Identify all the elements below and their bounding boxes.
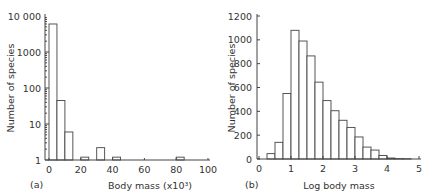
y-axis-label: Number of species [5, 44, 16, 133]
x-tick-label: 2 [320, 163, 326, 174]
chart-b-log-body-mass-histogram: 020040060080010001200012345Log body mass… [226, 11, 422, 192]
x-tick-label: 0 [256, 163, 262, 174]
y-tick-label: 1200 [228, 11, 252, 22]
x-tick-label: 40 [107, 164, 119, 175]
x-tick-label: 0 [46, 164, 52, 175]
histogram-bar [65, 132, 73, 160]
x-tick-label: 5 [416, 163, 422, 174]
histogram-bar [379, 155, 387, 159]
x-tick-label: 20 [75, 164, 87, 175]
histogram-bar [275, 142, 283, 159]
histogram-bar [363, 147, 371, 159]
y-tick-label: 100 [23, 83, 41, 94]
histogram-bar [315, 82, 323, 159]
x-tick-label: 60 [138, 164, 150, 175]
y-tick-label: 0 [246, 154, 252, 165]
panel-label: (b) [245, 179, 258, 190]
histogram-bar [355, 137, 363, 159]
histogram-bar [307, 56, 315, 159]
histogram-bar [299, 41, 307, 159]
x-tick-label: 3 [352, 163, 358, 174]
histogram-bar [371, 150, 379, 159]
y-tick-label: 10 000 [8, 11, 41, 22]
figure: 110100100010 000020406080100Body mass (x… [0, 0, 429, 196]
histogram-bar [331, 111, 339, 159]
chart-a-body-mass-histogram: 110100100010 000020406080100Body mass (x… [5, 11, 217, 192]
histogram-bar [267, 154, 275, 159]
histogram-bar [97, 148, 105, 160]
histogram-bar [323, 101, 331, 159]
histogram-bar [291, 30, 299, 159]
y-axis-label: Number of species [226, 44, 237, 133]
histogram-bar [49, 24, 57, 160]
x-axis-label: Body mass (x10³) [108, 180, 192, 191]
y-tick-label: 1000 [17, 47, 41, 58]
histogram-bar [347, 127, 355, 159]
x-axis-label: Log body mass [303, 180, 375, 191]
histogram-bar [57, 100, 65, 160]
x-tick-label: 80 [170, 164, 182, 175]
y-tick-label: 10 [29, 119, 41, 130]
x-tick-label: 100 [199, 164, 217, 175]
panel-label: (a) [30, 179, 43, 190]
x-tick-label: 4 [384, 163, 390, 174]
histogram-bar [283, 93, 291, 159]
histogram-bar [339, 120, 347, 159]
y-tick-label: 1 [35, 155, 41, 166]
x-tick-label: 1 [288, 163, 294, 174]
